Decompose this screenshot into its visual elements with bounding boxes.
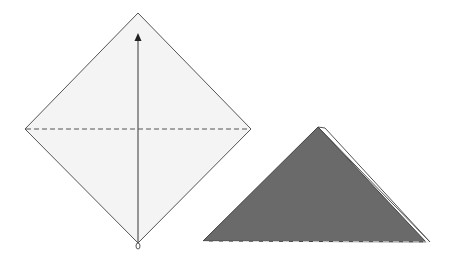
step-1-diamond <box>25 13 251 249</box>
diagram-canvas <box>0 0 450 258</box>
origami-diagram <box>0 0 450 258</box>
base-dashed-edge <box>203 242 430 243</box>
step-2-triangle <box>203 127 430 242</box>
arrow-tail <box>136 243 140 249</box>
